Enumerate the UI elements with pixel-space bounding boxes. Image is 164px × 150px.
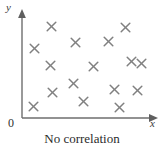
figure-caption: No correlation xyxy=(0,131,164,147)
y-axis-label: y xyxy=(6,2,11,13)
y-axis-arrowhead xyxy=(18,9,26,18)
origin-label: 0 xyxy=(8,117,14,129)
axes xyxy=(0,0,164,132)
scatter-plot-figure: y x 0 No correlation xyxy=(0,0,164,150)
plot-area: y x 0 xyxy=(0,0,164,132)
x-axis-label: x xyxy=(150,118,155,129)
